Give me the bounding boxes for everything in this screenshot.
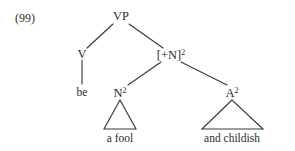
triangle-noun-phrase	[104, 100, 136, 129]
node-label-predicate: [+N]2	[157, 48, 185, 63]
node-label-adj-phrase: A2	[225, 86, 238, 101]
triangle-adj-phrase	[202, 100, 263, 129]
node-label-adj-phrase-base: A	[225, 86, 234, 100]
node-label-noun-phrase-base: N	[113, 86, 122, 100]
leaf-label-and-childish: and childish	[204, 132, 260, 144]
syntax-tree-figure: (99) VP V [+N]2 N2 A2 be a fool and chil…	[0, 0, 295, 151]
node-label-noun-phrase: N2	[113, 86, 126, 101]
node-label-noun-phrase-superscript: 2	[123, 86, 127, 95]
node-label-adj-phrase-superscript: 2	[235, 86, 239, 95]
node-label-v: V	[77, 47, 86, 61]
branch-predicate-to-ap	[181, 62, 227, 85]
leaf-label-a-fool: a fool	[107, 132, 134, 144]
node-label-predicate-superscript: 2	[181, 48, 185, 57]
leaf-label-be: be	[77, 86, 88, 98]
branch-predicate-to-np	[128, 62, 161, 85]
example-number: (99)	[15, 11, 35, 25]
node-label-vp: VP	[113, 9, 129, 23]
syntax-tree-diagram: (99) VP V [+N]2 N2 A2 be a fool and chil…	[0, 0, 295, 151]
branch-vp-to-v	[87, 24, 113, 48]
node-label-predicate-base: [+N]	[157, 48, 181, 62]
branch-vp-to-predicate	[129, 24, 163, 48]
